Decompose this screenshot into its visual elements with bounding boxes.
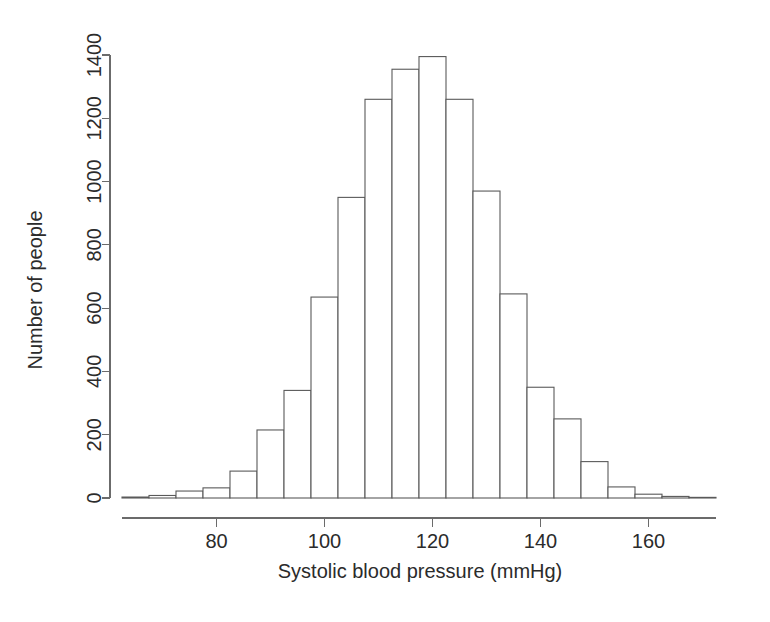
histogram-bar [392,69,419,498]
bars-group [122,57,716,498]
y-axis: 0200400600800100012001400 [83,33,110,504]
histogram-bar [635,494,662,498]
histogram-bar [284,390,311,498]
histogram-figure: 0200400600800100012001400 80100120140160… [0,0,770,622]
x-axis-tick-label: 100 [308,530,341,552]
histogram-bar [311,297,338,498]
histogram-bar [554,419,581,498]
histogram-bar [662,496,689,498]
histogram-bar [149,495,176,498]
y-axis-tick-label: 400 [83,355,105,388]
histogram-bar [338,197,365,498]
histogram-bar [608,487,635,498]
histogram-plot: 0200400600800100012001400 80100120140160… [0,0,770,622]
histogram-bar [257,430,284,498]
y-axis-tick-label: 200 [83,418,105,451]
y-axis-tick-label: 600 [83,291,105,324]
histogram-bar [689,497,716,498]
histogram-bar [176,491,203,498]
histogram-bar [500,294,527,498]
x-axis: 80100120140160 [122,518,716,552]
y-axis-tick-label: 800 [83,228,105,261]
x-axis-tick-label: 80 [205,530,227,552]
histogram-bar [581,462,608,498]
y-axis-tick-label: 0 [83,492,105,503]
y-axis-title: Number of people [24,211,46,370]
y-axis-tick-label: 1200 [83,96,105,141]
histogram-bar [365,99,392,498]
histogram-bar [527,387,554,498]
histogram-bar [473,191,500,498]
x-axis-title: Systolic blood pressure (mmHg) [278,560,563,582]
x-axis-tick-label: 140 [524,530,557,552]
histogram-bar [203,488,230,498]
y-axis-tick-label: 1400 [83,33,105,78]
histogram-bar [419,57,446,498]
x-axis-tick-label: 160 [632,530,665,552]
x-axis-tick-label: 120 [416,530,449,552]
histogram-bar [230,471,257,498]
histogram-bar [122,497,149,498]
y-axis-tick-label: 1000 [83,159,105,204]
histogram-bar [446,99,473,498]
